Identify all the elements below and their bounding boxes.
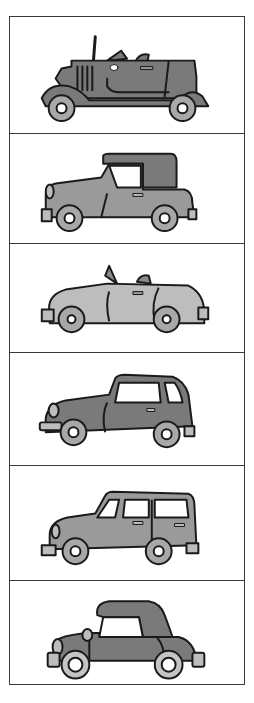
hardtop-roadster-icon	[10, 134, 244, 243]
panel-city-car: Small city car with soft top	[10, 581, 244, 686]
hatchback-car-icon	[10, 353, 244, 465]
convertible-car-icon	[10, 244, 244, 352]
station-wagon-icon	[10, 466, 244, 580]
panel-vintage-car: Vintage open touring car	[10, 17, 244, 134]
panel-convertible: Convertible sports roadster	[10, 244, 244, 353]
panel-station-wagon: Station wagon	[10, 466, 244, 581]
panel-hatchback: Hatchback coupe	[10, 353, 244, 466]
panel-hardtop-roadster: Hardtop roadster with canopy roof	[10, 134, 244, 244]
vintage-car-icon	[10, 17, 244, 133]
vehicle-panel-frame: Vintage open touring car Hardtop roadste…	[9, 16, 245, 685]
city-car-icon	[10, 581, 244, 686]
